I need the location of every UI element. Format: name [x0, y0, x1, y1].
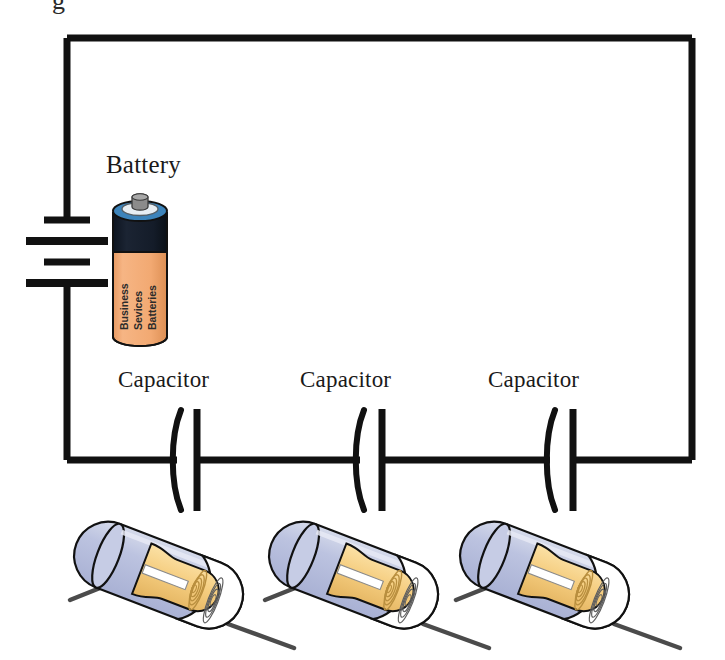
battery-photo: Business Sevices Batteries [113, 194, 167, 346]
battery-brand-line-3: Batteries [146, 285, 158, 330]
capacitor-photo-2 [259, 512, 489, 648]
capacitor-label-1: Capacitor [118, 368, 209, 391]
cropped-title-glyph: g [52, 0, 65, 16]
capacitor-symbol-3 [547, 409, 573, 511]
capacitor-photo-1 [64, 512, 294, 648]
battery-symbol [26, 220, 108, 283]
capacitor-label-3: Capacitor [488, 368, 579, 391]
battery-label: Battery [106, 152, 181, 177]
battery-terminal-top [132, 194, 148, 200]
capacitor-curved-plate [547, 410, 555, 510]
capacitor-label-2: Capacitor [300, 368, 391, 391]
battery-brand-line-2: Sevices [132, 291, 144, 330]
capacitor-photo-3 [450, 512, 680, 648]
battery-brand-line-1: Business [118, 283, 130, 330]
circuit-diagram-canvas: Business Sevices Batteries [0, 0, 725, 660]
